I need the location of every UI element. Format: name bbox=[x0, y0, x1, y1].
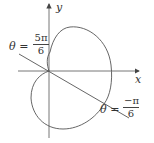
x-axis-label: x bbox=[135, 74, 141, 85]
fraction-5pi-over-6: 5π 6 bbox=[33, 33, 49, 56]
diagram-graphics bbox=[0, 0, 154, 143]
line-label-5pi6-lhs: θ = bbox=[9, 41, 28, 52]
fraction-minus-pi-over-6: −π 6 bbox=[123, 96, 139, 119]
y-axis-label: y bbox=[56, 2, 62, 13]
polar-curve-diagram: y x θ = 5π 6 θ = −π 6 bbox=[0, 0, 154, 143]
line-label-minus-pi6-lhs: θ = bbox=[100, 104, 119, 115]
